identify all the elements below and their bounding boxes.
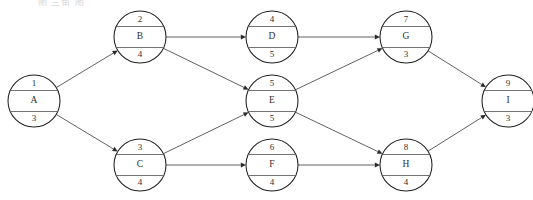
- node-duration-number: 5: [270, 113, 275, 123]
- edge-b-to-d: [166, 35, 246, 40]
- edge-a-to-c: [56, 114, 117, 151]
- edge-f-to-h: [298, 163, 380, 168]
- node-duration-number: 4: [138, 49, 143, 59]
- node-activity-label: B: [137, 31, 143, 41]
- node-duration-number: 4: [138, 177, 143, 187]
- node-b[interactable]: 2B4: [114, 11, 166, 63]
- arrowhead-icon: [480, 115, 486, 120]
- arrowhead-icon: [112, 147, 118, 152]
- arrowhead-icon: [480, 82, 486, 87]
- node-f[interactable]: 6F4: [246, 139, 298, 191]
- node-id-number: 3: [138, 142, 143, 152]
- node-activity-label: I: [506, 95, 509, 105]
- node-duration-number: 3: [506, 113, 511, 123]
- node-id-number: 6: [270, 142, 275, 152]
- node-i[interactable]: 9I3: [482, 75, 533, 127]
- edge-e-to-g: [295, 48, 382, 90]
- node-id-number: 4: [270, 14, 275, 24]
- node-g[interactable]: 7G3: [380, 11, 432, 63]
- node-id-number: 1: [32, 78, 37, 88]
- network-canvas: 1A32B43C44D55E56F47G38H49I3: [0, 0, 533, 200]
- node-activity-label: F: [269, 159, 274, 169]
- node-a[interactable]: 1A3: [8, 75, 60, 127]
- node-d[interactable]: 4D5: [246, 11, 298, 63]
- arrowhead-icon: [241, 35, 246, 40]
- node-h[interactable]: 8H4: [380, 139, 432, 191]
- node-activity-label: E: [269, 95, 275, 105]
- node-id-number: 2: [138, 14, 143, 24]
- node-duration-number: 3: [32, 113, 37, 123]
- edge-c-to-e: [163, 112, 248, 153]
- node-duration-number: 4: [270, 177, 275, 187]
- node-id-number: 5: [270, 78, 275, 88]
- edge-d-to-g: [298, 35, 380, 40]
- node-activity-label: H: [403, 159, 410, 169]
- nodes-layer: 1A32B43C44D55E56F47G38H49I3: [8, 11, 533, 191]
- edge-h-to-i: [428, 115, 486, 151]
- edge-g-to-i: [428, 51, 486, 87]
- node-activity-label: C: [137, 159, 143, 169]
- edge-b-to-e: [163, 48, 248, 89]
- edge-e-to-h: [295, 112, 382, 154]
- edge-a-to-b: [56, 50, 117, 87]
- node-activity-label: D: [269, 31, 276, 41]
- arrowhead-icon: [375, 163, 380, 168]
- node-duration-number: 3: [404, 49, 409, 59]
- node-activity-label: A: [31, 95, 38, 105]
- network-diagram: 图 三角 图 1A32B43C44D55E56F47G38H49I3: [0, 0, 533, 200]
- node-id-number: 8: [404, 142, 409, 152]
- node-id-number: 9: [506, 78, 511, 88]
- arrowhead-icon: [112, 50, 118, 55]
- node-duration-number: 4: [404, 177, 409, 187]
- node-id-number: 7: [404, 14, 409, 24]
- node-c[interactable]: 3C4: [114, 139, 166, 191]
- arrowhead-icon: [375, 35, 380, 40]
- node-duration-number: 5: [270, 49, 275, 59]
- node-activity-label: G: [403, 31, 410, 41]
- edge-c-to-f: [166, 163, 246, 168]
- arrowhead-icon: [241, 163, 246, 168]
- node-e[interactable]: 5E5: [246, 75, 298, 127]
